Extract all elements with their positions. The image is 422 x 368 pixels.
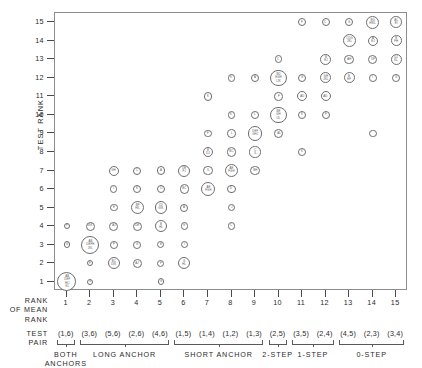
- data-point: I: [110, 185, 117, 192]
- data-point: C: [133, 167, 141, 175]
- data-point: AB DEFH JKL: [81, 236, 99, 254]
- data-point-label: C: [277, 58, 279, 61]
- data-point-label: K: [136, 188, 138, 191]
- data-point-label: A: [160, 169, 162, 172]
- group-brace-1: [80, 340, 169, 345]
- data-point: K: [298, 148, 306, 156]
- data-point-label: G: [301, 76, 303, 79]
- data-point: G: [133, 241, 141, 249]
- data-point: BC: [180, 184, 189, 193]
- data-point: G: [392, 74, 400, 82]
- data-point: F: [157, 260, 164, 267]
- data-point-label: G HL: [183, 260, 187, 266]
- group-brace-2: [174, 340, 263, 345]
- data-point: AD: [321, 91, 331, 101]
- x-tick-5: [160, 290, 161, 297]
- data-point-label: E: [113, 206, 115, 209]
- data-point-label: DE: [135, 225, 139, 228]
- data-point: C: [228, 222, 236, 230]
- data-point: GIK: [86, 222, 95, 231]
- data-point-label: F: [160, 262, 162, 265]
- x-tick-label-1: 1: [56, 298, 76, 307]
- data-point-label: G: [160, 280, 162, 283]
- data-point: F: [64, 223, 70, 229]
- data-point: G: [181, 222, 189, 230]
- data-point: B DJ: [203, 147, 214, 158]
- data-point: C IL: [249, 146, 260, 157]
- data-point: DE: [133, 222, 142, 231]
- y-tick-label-11: 11: [26, 91, 44, 100]
- x-tick-11: [301, 290, 302, 297]
- group-label-5: 0-STEP: [322, 350, 422, 359]
- data-point: B HL: [155, 220, 167, 232]
- data-point: K: [228, 74, 236, 82]
- data-point-label: GH: [112, 169, 116, 172]
- x-tick-14: [372, 290, 373, 297]
- data-point-label: BE GH IJL: [276, 110, 280, 119]
- data-point-label: C: [325, 21, 327, 24]
- data-point: BC: [227, 147, 236, 156]
- data-point: AD: [297, 91, 307, 101]
- data-point-label: F: [301, 21, 303, 24]
- y-tick-label-13: 13: [26, 54, 44, 63]
- data-point-label: G: [395, 76, 397, 79]
- data-point: AE FGH: [225, 164, 239, 178]
- data-point-label: K: [301, 150, 303, 153]
- test-pair-15: (3,4): [380, 329, 410, 338]
- x-tick-label-2: 2: [79, 298, 99, 307]
- data-point-label: AJ: [136, 262, 140, 265]
- data-point-label: K: [230, 76, 232, 79]
- data-point-label: CD GIK: [158, 205, 163, 211]
- data-point-label: DF: [371, 58, 375, 61]
- data-point: IJ: [157, 185, 165, 193]
- data-point: DEF GHJ: [248, 126, 262, 140]
- data-point-label: BC: [182, 188, 186, 191]
- x-tick-4: [136, 290, 137, 297]
- data-point: I: [181, 241, 188, 248]
- data-point: AJ: [133, 259, 142, 268]
- data-point-label: C: [230, 225, 232, 228]
- y-tick-label-12: 12: [26, 73, 44, 82]
- data-point: G: [345, 18, 353, 26]
- data-point-label: J: [231, 206, 233, 209]
- data-point-label: E: [160, 243, 162, 246]
- data-point-label: G: [348, 21, 350, 24]
- data-point-label: AH: [347, 58, 351, 61]
- data-point: AL: [274, 129, 283, 138]
- data-point-label: G: [66, 243, 68, 246]
- data-point-label: K: [230, 113, 232, 116]
- data-point-label: A EJ: [371, 38, 375, 44]
- data-point: E: [110, 204, 118, 212]
- data-point: A: [180, 204, 188, 212]
- x-tick-label-7: 7: [197, 298, 217, 307]
- data-point-label: BH: [253, 169, 257, 172]
- data-point: BH: [250, 166, 259, 175]
- data-point: A EJ: [368, 36, 378, 46]
- data-point-label: A: [183, 206, 185, 209]
- data-point-label: F: [89, 262, 91, 265]
- data-point: GH: [109, 166, 119, 176]
- data-point: BG HIKL: [366, 16, 379, 29]
- data-point: I: [369, 74, 377, 82]
- data-point-label: DE FJ: [182, 167, 186, 173]
- x-tick-label-8: 8: [221, 298, 241, 307]
- x-tick-label-5: 5: [150, 298, 170, 307]
- data-point-label: BD EGH IJK: [275, 73, 281, 82]
- data-point-label: L: [231, 132, 233, 135]
- data-point-label: L: [254, 113, 256, 116]
- x-tick-label-4: 4: [126, 298, 146, 307]
- group-brace-3: [269, 340, 287, 345]
- data-point-label: F: [325, 113, 327, 116]
- data-point-label: C IL: [254, 149, 257, 155]
- x-tick-8: [231, 290, 232, 297]
- data-point: BF HIL: [131, 201, 144, 214]
- x-tick-label-15: 15: [385, 298, 405, 307]
- data-point: DJ KL: [391, 54, 402, 65]
- data-point-label: DJ KL: [394, 56, 398, 62]
- data-point-label: IJ: [160, 188, 162, 191]
- x-tick-label-14: 14: [362, 298, 382, 307]
- data-point: BD EGH IJK: [270, 70, 286, 86]
- data-point: A: [157, 166, 165, 174]
- data-point: A: [251, 74, 259, 82]
- data-point-label: K: [207, 95, 209, 98]
